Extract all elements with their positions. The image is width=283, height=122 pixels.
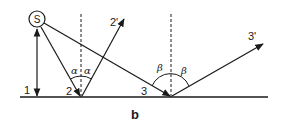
source-circle: S (29, 11, 45, 27)
reflection-diagram: S 1 α α 2 2' β β 3 3' b (0, 0, 283, 122)
figure-caption: b (131, 107, 139, 122)
angle-beta-left: β (156, 62, 163, 73)
ray-1-label: 1 (24, 84, 30, 96)
ray-2-reflected-label: 2' (110, 16, 118, 28)
source-label: S (34, 14, 41, 25)
ray-2-label: 2 (66, 85, 72, 97)
ray-2-incident (41, 27, 80, 96)
angle-alpha-right: α (84, 65, 91, 76)
angle-beta-right: β (180, 65, 187, 76)
angle-arc-alpha (71, 76, 92, 79)
ray-3-incident (44, 23, 170, 96)
angle-alpha-left: α (71, 65, 78, 76)
ray-3-reflected-label: 3' (248, 30, 256, 42)
ray-3-label: 3 (141, 85, 147, 97)
